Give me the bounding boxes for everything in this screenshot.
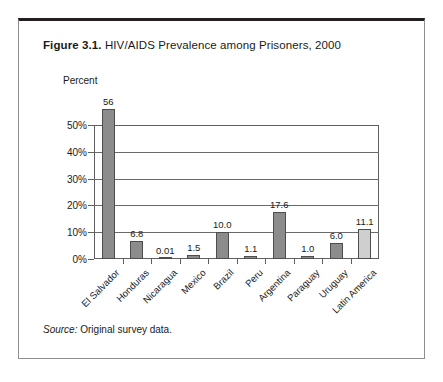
bar xyxy=(102,109,115,259)
x-axis-tick-mark xyxy=(294,259,295,264)
bar-value-label: 0.01 xyxy=(156,245,175,256)
source-text: Original survey data. xyxy=(80,324,172,335)
x-axis-tick-mark xyxy=(123,259,124,264)
x-axis-tick-mark xyxy=(151,259,152,264)
gridline xyxy=(94,179,379,180)
x-axis-tick-mark xyxy=(180,259,181,264)
y-axis-tick-label: 10% xyxy=(67,227,87,238)
bar-value-label: 11.1 xyxy=(356,216,374,227)
x-axis-category-label: Mexico xyxy=(179,267,208,296)
bar xyxy=(130,241,143,259)
bar xyxy=(244,256,257,259)
y-axis-tick-label: 40% xyxy=(67,146,87,157)
x-axis-category-label: El Salvador xyxy=(79,267,121,309)
bar-value-label: 1.1 xyxy=(244,243,257,254)
y-axis-tick-label: 30% xyxy=(67,173,87,184)
gridline xyxy=(94,152,379,153)
bar-chart: Percent 0%10%20%30%40%50% 566.80.011.510… xyxy=(19,21,424,359)
bar xyxy=(301,256,314,259)
bar xyxy=(358,229,371,259)
x-axis-category-label: Peru xyxy=(243,267,265,289)
bar-value-label: 1.0 xyxy=(301,243,314,254)
bar xyxy=(187,255,200,259)
y-axis-tick-label: 20% xyxy=(67,200,87,211)
bar-value-label: 6.0 xyxy=(330,230,343,241)
y-axis-tick-label: 50% xyxy=(67,120,87,131)
x-axis-tick-mark xyxy=(208,259,209,264)
bar-value-label: 10.0 xyxy=(213,219,232,230)
x-axis-tick-mark xyxy=(265,259,266,264)
x-axis-tick-mark xyxy=(322,259,323,264)
bar xyxy=(159,257,172,259)
bar-value-label: 1.5 xyxy=(187,242,200,253)
y-axis-tick-mark xyxy=(88,259,94,260)
bar xyxy=(273,212,286,259)
x-axis-tick-mark xyxy=(351,259,352,264)
x-axis-category-label: Brazil xyxy=(211,267,236,292)
gridline xyxy=(94,205,379,206)
source-note: Source: Original survey data. xyxy=(43,324,172,335)
bar-value-label: 6.8 xyxy=(130,228,143,239)
bar xyxy=(216,232,229,259)
x-axis-tick-mark xyxy=(237,259,238,264)
y-axis-tick-label: 0% xyxy=(73,254,87,265)
y-axis-tick-labels: 0%10%20%30%40%50% xyxy=(51,125,87,259)
bar-value-label: 56 xyxy=(103,96,114,107)
figure-frame: Figure 3.1. HIV/AIDS Prevalence among Pr… xyxy=(18,18,425,359)
bar xyxy=(330,243,343,259)
bar-value-label: 17.6 xyxy=(270,199,289,210)
source-label: Source: xyxy=(43,324,77,335)
y-axis-title: Percent xyxy=(63,75,97,86)
